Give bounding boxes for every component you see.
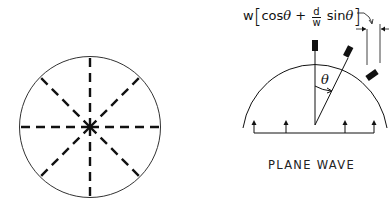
diagram-canvas [0, 0, 389, 214]
dim-arrowhead-right [381, 27, 385, 32]
fraction-denominator: w [312, 18, 320, 28]
element-top [312, 40, 318, 51]
dashed-spoke [90, 127, 140, 177]
formula-theta-1: θ [283, 8, 291, 23]
dashed-spoke [41, 127, 91, 177]
formula-close-bracket: ] [353, 4, 361, 28]
element-third [365, 69, 378, 81]
formula-cos: cos [261, 8, 283, 23]
plane-wave-caption: PLANE WAVE [268, 158, 355, 172]
dashed-spoke [41, 78, 91, 128]
formula-w: w [243, 8, 254, 23]
wave-arrowhead [284, 120, 289, 125]
plane-wave-figure [243, 13, 389, 133]
formula-fraction: dw [312, 7, 320, 28]
wave-arrowhead [252, 120, 257, 125]
element-second [343, 45, 353, 58]
dim-arrowhead-left [362, 27, 366, 32]
wave-arrowhead [343, 120, 348, 125]
formula-plus: + [295, 8, 306, 23]
wave-arrowhead [372, 120, 377, 125]
dashed-spoke [90, 78, 140, 128]
center-point [88, 125, 92, 129]
plane-wave-arrows [252, 120, 377, 133]
dipole-array-figure [20, 57, 161, 198]
path-difference-formula: w[cosθ + dw sinθ] [243, 4, 361, 28]
angle-label: θ [321, 72, 329, 87]
formula-sin: sin [327, 8, 346, 23]
